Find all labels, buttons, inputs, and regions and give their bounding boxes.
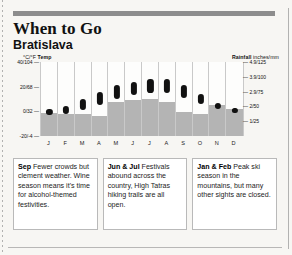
callout-lead: Jan & Feb — [197, 163, 231, 171]
month-label: A — [158, 140, 175, 146]
rainfall-bar — [108, 102, 125, 136]
month-label: O — [192, 140, 209, 146]
chart-plot-area: 40/104 —20/68 —0/32 —-20/-4 —— 4.9/125— … — [40, 62, 242, 136]
temp-tick-label: -20/-4 — — [20, 133, 39, 139]
rainfall-bar — [92, 116, 109, 136]
page-subtitle: Bratislava — [13, 38, 73, 52]
month-axis: JFMAMJJASOND — [40, 140, 242, 150]
rainfall-bar — [176, 112, 193, 136]
temperature-bar — [97, 92, 103, 106]
page-title: When to Go — [13, 19, 102, 39]
temperature-bar — [181, 85, 187, 97]
month-label: M — [74, 140, 91, 146]
rainfall-bar — [193, 114, 210, 136]
rain-tick-label: — 2/50 — [243, 103, 259, 109]
chart-column — [225, 62, 244, 136]
page-bottom-rule — [8, 247, 282, 248]
month-label: A — [91, 140, 108, 146]
climate-chart: °C/°F Temp Rainfall inches/mm 40/104 —20… — [13, 54, 279, 154]
callout-lead: Sep — [18, 163, 31, 171]
rainfall-bar — [142, 99, 159, 136]
month-label: J — [124, 140, 141, 146]
rainfall-bar — [125, 100, 142, 136]
temperature-bar — [147, 79, 153, 93]
page-right-rule — [288, 8, 289, 249]
callout-jun-jul: Jun & Jul Festivals abound across the co… — [103, 158, 188, 230]
page-margin-dots — [2, 0, 3, 255]
temp-tick-label: 20/68 — — [20, 84, 39, 90]
month-label: S — [175, 140, 192, 146]
rain-tick-label: — 2.9/75 — [243, 89, 263, 95]
temp-tick-label: 0/32 — — [23, 108, 39, 114]
month-label: J — [141, 140, 158, 146]
temperature-bar — [231, 108, 237, 113]
month-label: J — [40, 140, 57, 146]
callout-row: Sep Fewer crowds but clement weather. Wi… — [13, 158, 277, 230]
month-label: F — [57, 140, 74, 146]
temperature-bar — [114, 85, 120, 99]
temperature-bar — [80, 99, 86, 110]
rainfall-bar — [41, 113, 58, 136]
temperature-bar — [130, 82, 136, 96]
rainfall-bar — [75, 114, 92, 136]
temperature-bar — [164, 79, 170, 93]
rainfall-bar — [159, 102, 176, 136]
month-label: N — [208, 140, 225, 146]
callout-sep: Sep Fewer crowds but clement weather. Wi… — [13, 158, 98, 230]
rain-tick-label: — 1/25 — [243, 118, 259, 124]
month-label: M — [107, 140, 124, 146]
rainfall-bar — [209, 105, 226, 136]
temp-tick-label: 40/104 — — [17, 59, 39, 65]
temperature-bar — [198, 94, 204, 104]
header-rule — [13, 11, 275, 16]
temp-axis-word: Temp — [38, 54, 52, 60]
rain-tick-label: — 4.9/125 — [243, 59, 266, 65]
callout-jan-feb: Jan & Feb Peak ski season in the mountai… — [192, 158, 277, 230]
callout-lead: Jun & Jul — [108, 163, 140, 171]
month-label: D — [225, 140, 242, 146]
rain-tick-label: — 3.9/100 — [243, 74, 266, 80]
rainfall-bar — [58, 114, 75, 136]
rainfall-bar — [226, 109, 243, 136]
